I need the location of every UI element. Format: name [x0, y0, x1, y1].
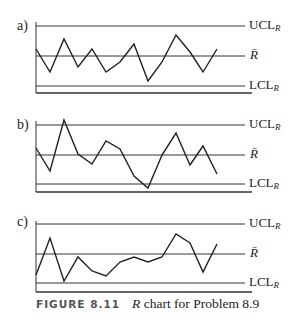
caption-text: chart for Problem 8.9 [140, 296, 259, 311]
data-series-c [36, 234, 217, 281]
panel-label-b: b) [17, 117, 29, 133]
figure-caption: FIGURE 8.11R chart for Problem 8.9 [36, 294, 259, 312]
rbar-label-a: R̄ [250, 47, 258, 63]
ucl-label-c: UCLR [249, 215, 281, 231]
rbar-label-b: R̄ [250, 146, 258, 162]
lcl-label-b: LCLR [249, 175, 279, 191]
rbar-label-c: R̄ [250, 245, 258, 261]
panel-label-a: a) [17, 18, 28, 34]
figure-description: R chart for Problem 8.9 [132, 296, 259, 311]
figure-number: FIGURE 8.11 [36, 298, 120, 310]
data-series-b [36, 120, 217, 188]
data-series-a [36, 35, 217, 81]
panel-label-c: c) [17, 214, 28, 230]
lcl-label-a: LCLR [249, 77, 279, 93]
ucl-label-a: UCLR [249, 17, 281, 33]
ucl-label-b: UCLR [249, 116, 281, 132]
lcl-label-c: LCLR [249, 274, 279, 290]
